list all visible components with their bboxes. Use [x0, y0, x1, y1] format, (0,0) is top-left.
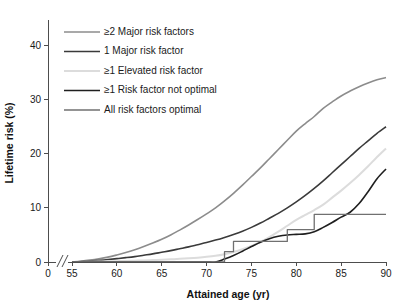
legend-label: ≥1 Elevated risk factor: [104, 65, 204, 76]
legend-item: All risk factors optimal: [64, 104, 201, 115]
y-tick-label: 10: [30, 202, 42, 213]
legend-layer: ≥2 Major risk factors1 Major risk factor…: [64, 26, 217, 115]
x-tick-label: 0: [45, 268, 51, 279]
x-tick-label: 75: [246, 268, 258, 279]
y-tick-label: 40: [30, 40, 42, 51]
y-tick-label: 30: [30, 94, 42, 105]
y-tick-label: 20: [30, 148, 42, 159]
legend-label: All risk factors optimal: [104, 104, 201, 115]
series-line-3: [72, 169, 386, 262]
legend-item: 1 Major risk factor: [64, 45, 184, 56]
x-tick-label: 80: [291, 268, 303, 279]
x-tick-label: 85: [336, 268, 348, 279]
legend-item: ≥1 Elevated risk factor: [64, 65, 204, 76]
series-line-1: [72, 127, 386, 262]
x-tick-label: 70: [201, 268, 213, 279]
x-tick-label: 65: [156, 268, 168, 279]
legend-label: 1 Major risk factor: [104, 45, 184, 56]
legend-label: ≥2 Major risk factors: [104, 26, 194, 37]
axis-break-mark: [57, 255, 68, 267]
x-tick-label: 55: [66, 268, 78, 279]
y-axis-title: Lifetime risk (%): [3, 102, 15, 183]
chart-canvas: 01020304005560657075808590 ≥2 Major risk…: [0, 0, 408, 303]
x-tick-label: 90: [380, 268, 392, 279]
x-tick-label: 60: [111, 268, 123, 279]
x-axis-title: Attained age (yr): [187, 288, 270, 300]
legend-label: ≥1 Risk factor not optimal: [104, 84, 217, 95]
legend-item: ≥1 Risk factor not optimal: [64, 84, 217, 95]
y-tick-label: 0: [35, 257, 41, 268]
lifetime-risk-chart: 01020304005560657075808590 ≥2 Major risk…: [0, 0, 408, 303]
series-line-2: [72, 148, 386, 262]
axes-layer: 01020304005560657075808590: [30, 20, 392, 279]
legend-item: ≥2 Major risk factors: [64, 26, 194, 37]
